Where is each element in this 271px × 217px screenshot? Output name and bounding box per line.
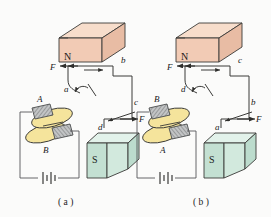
corner-label-a-b: a: [215, 122, 220, 132]
caption-b: ( b ): [193, 197, 209, 208]
corner-label-b-b: b: [251, 97, 256, 107]
brush-label-B-a: B: [43, 145, 49, 155]
north-pole-label-b: N: [181, 51, 188, 62]
corner-label-d-b: d: [181, 84, 186, 94]
north-pole-label-a: N: [64, 51, 71, 62]
south-pole-label-b: S: [209, 154, 215, 165]
brush-label-A-b: A: [159, 145, 166, 155]
figure-root: N: [0, 0, 271, 217]
force-label-left-a: F: [49, 62, 56, 72]
corner-label-c-a: c: [134, 97, 138, 107]
force-label-left-b: F: [166, 62, 173, 72]
corner-label-d-a: d: [98, 122, 103, 132]
corner-label-a-a: a: [64, 84, 69, 94]
corner-label-c-b: c: [238, 55, 242, 65]
brush-label-B-b: B: [154, 94, 160, 104]
caption-a: ( a ): [58, 197, 73, 208]
corner-label-b-a: b: [121, 55, 126, 65]
south-pole-label-a: S: [92, 154, 98, 165]
physics-diagram-canvas: N: [0, 0, 271, 217]
force-label-right-a: F: [138, 114, 145, 124]
force-label-right-b: F: [255, 114, 262, 124]
brush-label-A-a: A: [36, 94, 43, 104]
